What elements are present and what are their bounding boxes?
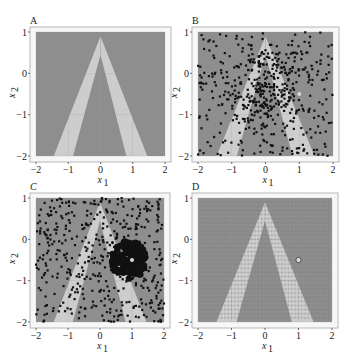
- x-tick-label: 2: [331, 164, 336, 175]
- data-point: [155, 295, 157, 297]
- data-point: [55, 253, 57, 255]
- data-point: [280, 106, 282, 108]
- data-point: [234, 79, 236, 81]
- data-point: [270, 44, 272, 46]
- data-point: [298, 109, 300, 111]
- data-point: [148, 270, 150, 272]
- data-point: [55, 232, 57, 234]
- data-point: [253, 114, 255, 116]
- data-point: [106, 241, 108, 243]
- data-point: [318, 101, 320, 103]
- x-tick-label: −2: [31, 164, 42, 175]
- data-point: [291, 153, 293, 155]
- data-point: [311, 84, 313, 86]
- data-point: [313, 153, 315, 155]
- data-point: [317, 153, 319, 155]
- data-point: [283, 66, 285, 68]
- data-point: [99, 211, 101, 213]
- data-point: [234, 98, 236, 100]
- data-point: [108, 200, 110, 202]
- data-point: [307, 81, 309, 83]
- data-point: [141, 302, 143, 304]
- data-point: [250, 44, 252, 46]
- data-point: [263, 101, 265, 103]
- data-point: [279, 72, 281, 74]
- data-point: [102, 241, 104, 243]
- data-point: [301, 53, 303, 55]
- data-point: [270, 133, 272, 135]
- data-point: [38, 214, 40, 216]
- data-point: [48, 244, 50, 246]
- data-point: [287, 44, 289, 46]
- data-point: [310, 137, 312, 139]
- x-axis-label: x: [261, 340, 267, 351]
- data-point: [91, 251, 93, 253]
- data-point: [158, 248, 160, 250]
- data-point: [91, 290, 93, 292]
- data-point: [199, 74, 201, 76]
- data-point: [302, 134, 304, 136]
- data-point: [255, 101, 257, 103]
- data-point: [117, 315, 119, 317]
- data-point: [309, 45, 311, 47]
- data-point: [94, 275, 96, 277]
- data-point: [304, 31, 306, 33]
- data-point: [92, 273, 94, 275]
- data-point: [57, 249, 59, 251]
- data-point: [119, 223, 121, 225]
- data-point: [262, 85, 264, 87]
- data-point: [153, 241, 155, 243]
- data-point: [319, 32, 321, 34]
- data-point: [259, 145, 261, 147]
- data-point: [50, 210, 52, 212]
- data-point: [120, 314, 122, 316]
- data-point: [242, 149, 244, 151]
- data-point: [254, 98, 256, 100]
- data-point: [288, 96, 290, 98]
- data-point: [286, 74, 288, 76]
- data-point: [100, 289, 102, 291]
- data-point: [328, 122, 330, 124]
- data-point: [137, 223, 139, 225]
- data-point: [132, 307, 134, 309]
- cluster-point: [127, 249, 133, 255]
- data-point: [113, 230, 115, 232]
- data-point: [108, 298, 110, 300]
- data-point: [276, 60, 278, 62]
- data-point: [261, 128, 263, 130]
- data-point: [56, 277, 58, 279]
- data-point: [65, 257, 67, 259]
- data-point: [108, 290, 110, 292]
- data-point: [211, 75, 213, 77]
- data-point: [148, 235, 150, 237]
- data-point: [93, 262, 95, 264]
- data-point: [296, 52, 298, 54]
- data-point: [66, 271, 68, 273]
- data-point: [98, 280, 100, 282]
- data-point: [79, 285, 81, 287]
- data-point: [156, 297, 158, 299]
- data-point: [117, 319, 119, 321]
- data-point: [131, 215, 133, 217]
- data-point: [330, 122, 332, 124]
- data-point: [59, 250, 61, 252]
- data-point: [135, 228, 137, 230]
- x-tick-label: −1: [226, 164, 237, 175]
- data-point: [71, 211, 73, 213]
- data-point: [72, 286, 74, 288]
- data-point: [235, 95, 237, 97]
- data-point: [201, 76, 203, 78]
- data-point: [160, 228, 162, 230]
- highlight-point: [130, 258, 134, 262]
- data-point: [148, 289, 150, 291]
- data-point: [127, 315, 129, 317]
- data-point: [96, 214, 98, 216]
- data-point: [113, 287, 115, 289]
- data-point: [227, 82, 229, 84]
- data-point: [70, 308, 72, 310]
- data-point: [225, 82, 227, 84]
- data-point: [309, 95, 311, 97]
- data-point: [238, 92, 240, 94]
- data-point: [294, 56, 296, 58]
- data-point: [259, 93, 261, 95]
